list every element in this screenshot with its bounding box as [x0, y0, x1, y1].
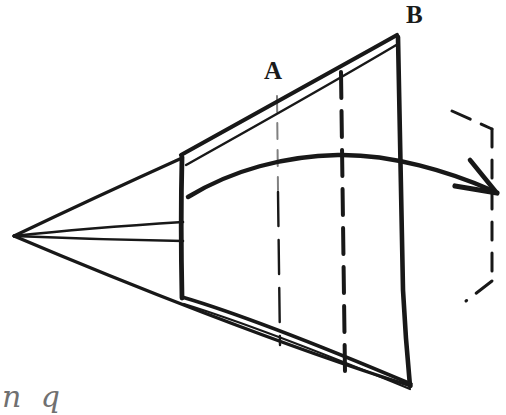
dashed-station-thin [277, 96, 278, 190]
fin-top-edge-inner [186, 44, 398, 165]
figure-canvas: A B n q [0, 0, 506, 415]
cone-edges [14, 158, 411, 386]
ghost-top-segment [452, 111, 492, 129]
fin-bottom-edge-outer [182, 297, 411, 384]
ghost-deflected-outline [452, 111, 492, 301]
fin-right-edge [398, 37, 410, 386]
vertex-label-a: A [264, 58, 282, 83]
wedge-lower-line [14, 236, 183, 241]
rotation-arrow-shaft [188, 155, 491, 197]
dashed-station-thick [341, 72, 345, 372]
fin-outline [181, 35, 411, 389]
fin-top-edge-outer [181, 35, 397, 155]
fin-left-edge [181, 157, 182, 298]
caption-fragment: n q [2, 382, 65, 412]
diagram-svg [0, 0, 506, 415]
ghost-bottom-segment [466, 281, 492, 301]
vertex-label-b: B [406, 2, 423, 27]
hidden-station-lines [277, 72, 345, 372]
lower-trailing-edge [14, 236, 411, 386]
dashed-station-thin-lower [278, 192, 280, 345]
